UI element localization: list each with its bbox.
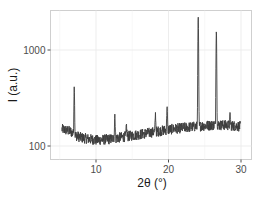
x-tick-label: 30 (235, 164, 247, 175)
x-tick-label: 10 (90, 164, 102, 175)
plot-panel (51, 11, 252, 160)
x-tick-label: 20 (163, 164, 175, 175)
xrd-chart: 1001000 102030 2θ (°) I (a.u.) (0, 0, 265, 197)
y-axis: 1001000 (23, 45, 50, 152)
y-axis-title: I (a.u.) (6, 68, 20, 103)
x-axis: 102030 (90, 160, 247, 175)
y-tick-label: 100 (29, 141, 46, 152)
x-axis-title: 2θ (°) (137, 176, 166, 190)
y-tick-label: 1000 (23, 45, 46, 56)
